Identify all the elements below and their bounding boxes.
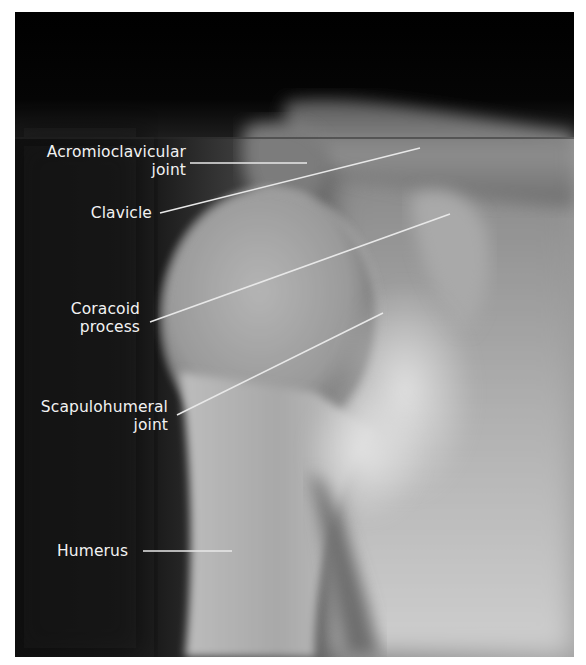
label-acromioclavicular-joint: Acromioclavicular joint (16, 143, 186, 179)
label-scapulohumeral-line2: joint (16, 416, 168, 434)
label-acromioclavicular-line2: joint (16, 161, 186, 179)
label-acromioclavicular-line1: Acromioclavicular (16, 143, 186, 161)
label-coracoid-process: Coracoid process (40, 300, 140, 336)
label-scapulohumeral-joint: Scapulohumeral joint (16, 398, 168, 434)
label-humerus-line1: Humerus (57, 542, 128, 560)
label-clavicle-line1: Clavicle (60, 204, 152, 222)
label-coracoid-line2: process (40, 318, 140, 336)
label-coracoid-line1: Coracoid (40, 300, 140, 318)
label-scapulohumeral-line1: Scapulohumeral (16, 398, 168, 416)
label-clavicle: Clavicle (60, 204, 152, 222)
label-humerus: Humerus (57, 542, 128, 560)
